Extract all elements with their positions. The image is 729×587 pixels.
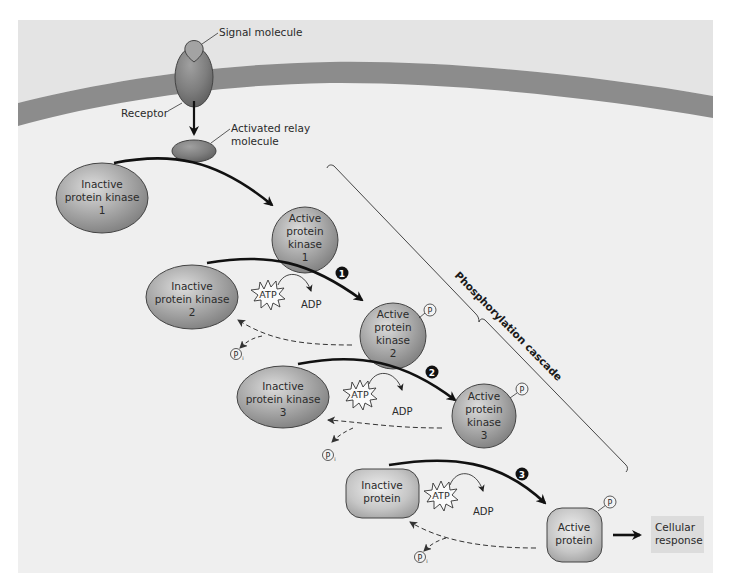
receptor-label: Receptor bbox=[121, 107, 169, 119]
svg-text:P: P bbox=[326, 452, 331, 461]
svg-text:Active: Active bbox=[377, 308, 409, 320]
inactive-protein-kinase-1: Inactive protein kinase 1 bbox=[56, 163, 148, 233]
svg-text:Inactive: Inactive bbox=[361, 479, 403, 491]
active-protein-kinase-2: Active protein kinase 2 bbox=[360, 303, 426, 369]
signal-molecule-label: Signal molecule bbox=[219, 26, 302, 38]
svg-text:Inactive: Inactive bbox=[262, 380, 304, 392]
svg-text:1: 1 bbox=[99, 204, 106, 216]
svg-text:protein: protein bbox=[374, 321, 411, 333]
svg-text:P: P bbox=[428, 307, 433, 316]
active-protein-kinase-3: Active protein kinase 3 bbox=[452, 384, 516, 448]
phosphate-icon: P bbox=[604, 496, 616, 508]
svg-text:P: P bbox=[608, 499, 613, 508]
svg-text:i: i bbox=[334, 456, 335, 462]
svg-text:ATP: ATP bbox=[351, 389, 369, 400]
step-3-number: 3 bbox=[519, 470, 525, 480]
svg-text:protein: protein bbox=[363, 492, 400, 504]
phosphate-icon: P bbox=[424, 304, 436, 316]
svg-text:2: 2 bbox=[189, 306, 196, 318]
svg-text:3: 3 bbox=[280, 406, 287, 418]
svg-text:protein kinase: protein kinase bbox=[246, 393, 321, 405]
active-protein-kinase-1: Active protein kinase 1 bbox=[272, 207, 338, 273]
svg-text:kinase: kinase bbox=[288, 238, 322, 250]
phosphate-icon: P bbox=[516, 383, 528, 395]
cellular-response-line2: response bbox=[655, 534, 703, 546]
svg-text:Inactive: Inactive bbox=[81, 178, 123, 190]
svg-text:protein: protein bbox=[286, 225, 323, 237]
cellular-response-line1: Cellular bbox=[655, 521, 696, 533]
svg-text:Active: Active bbox=[289, 212, 321, 224]
step-2-number: 2 bbox=[429, 368, 435, 378]
svg-text:kinase: kinase bbox=[467, 416, 501, 428]
svg-text:protein kinase: protein kinase bbox=[155, 293, 230, 305]
svg-text:3: 3 bbox=[481, 429, 488, 441]
svg-text:ATP: ATP bbox=[432, 490, 450, 501]
relay-label-line1: Activated relay bbox=[231, 122, 310, 134]
step-1-number: 1 bbox=[339, 269, 345, 279]
adp-label: ADP bbox=[301, 299, 322, 310]
adp-label: ADP bbox=[473, 506, 494, 517]
svg-text:Active: Active bbox=[468, 390, 500, 402]
svg-text:2: 2 bbox=[390, 347, 397, 359]
phosphorylation-cascade-diagram: Signal molecule Receptor Activated relay… bbox=[0, 0, 729, 587]
svg-text:P: P bbox=[520, 386, 525, 395]
inactive-protein: Inactive protein bbox=[346, 469, 419, 518]
svg-text:Inactive: Inactive bbox=[171, 280, 213, 292]
inactive-protein-kinase-2: Inactive protein kinase 2 bbox=[146, 265, 238, 329]
svg-text:1: 1 bbox=[302, 251, 309, 263]
svg-text:protein: protein bbox=[465, 403, 502, 415]
svg-text:i: i bbox=[426, 558, 427, 564]
adp-label: ADP bbox=[392, 406, 413, 417]
active-protein: Active protein bbox=[547, 508, 602, 562]
svg-text:P: P bbox=[418, 554, 423, 563]
svg-text:P: P bbox=[234, 351, 239, 360]
inactive-protein-kinase-3: Inactive protein kinase 3 bbox=[237, 366, 329, 428]
relay-label-line2: molecule bbox=[231, 135, 279, 147]
svg-text:Active: Active bbox=[558, 521, 590, 533]
svg-text:kinase: kinase bbox=[376, 334, 410, 346]
svg-text:protein kinase: protein kinase bbox=[65, 191, 140, 203]
svg-text:i: i bbox=[242, 355, 243, 361]
svg-text:protein: protein bbox=[555, 534, 592, 546]
svg-text:ATP: ATP bbox=[259, 289, 277, 300]
